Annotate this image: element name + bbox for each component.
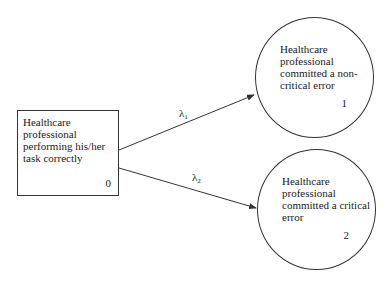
- state-1-circle: Healthcare professional committed a non-…: [255, 17, 374, 138]
- state-0-label: Healthcare professional performing his/h…: [23, 116, 119, 164]
- state-0-box: Healthcare professional performing his/h…: [17, 110, 119, 196]
- arrow-0-to-1: [119, 95, 254, 150]
- lambda-subscript: 2: [197, 177, 201, 185]
- state-1-label: Healthcare professional committed a non-…: [280, 43, 370, 91]
- state-0-number: 0: [106, 177, 112, 189]
- arrow-0-to-2: [119, 168, 256, 208]
- state-2-number: 2: [344, 229, 350, 241]
- transition-rate-lambda-1: λ1: [179, 107, 188, 121]
- state-2-label: Healthcare professional committed a crit…: [282, 175, 372, 223]
- state-2-circle: Healthcare professional committed a crit…: [257, 149, 376, 270]
- transition-rate-lambda-2: λ2: [192, 171, 201, 185]
- lambda-subscript: 1: [184, 113, 188, 121]
- state-1-number: 1: [342, 97, 348, 109]
